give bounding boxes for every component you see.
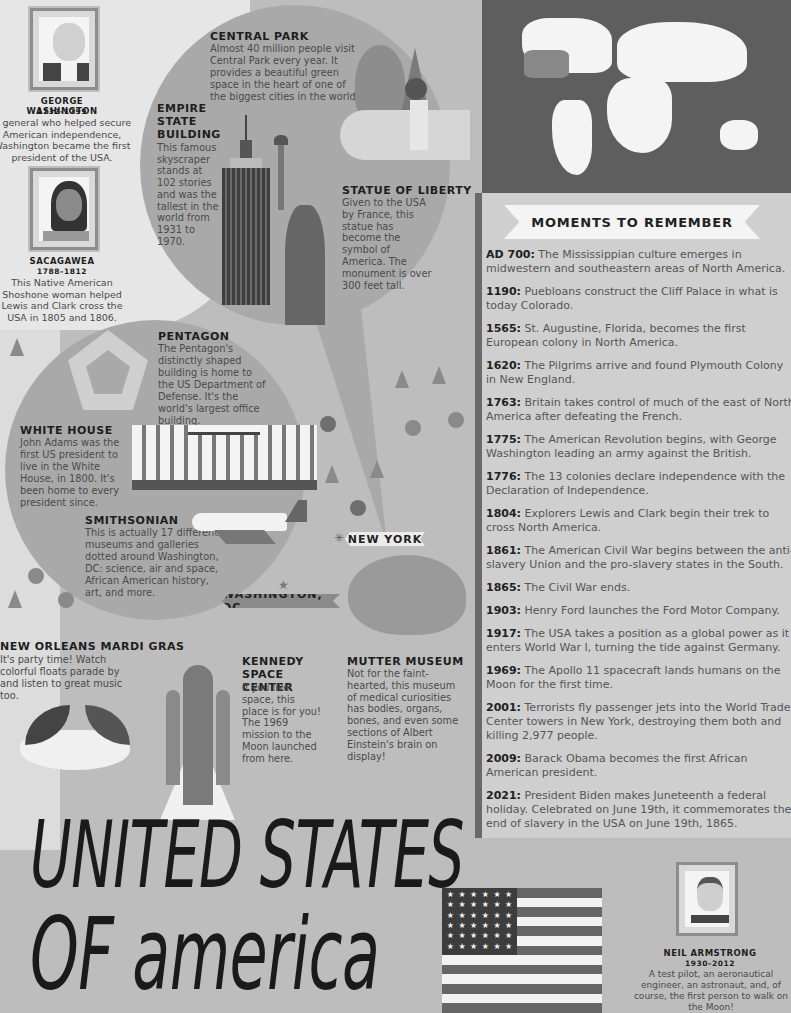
moments-banner: MOMENTS TO REMEMBER [504, 205, 760, 239]
airplane-icon [192, 513, 287, 531]
washington-portrait [30, 8, 98, 90]
statue-of-liberty-text: Given to the USA by France, this statue … [342, 197, 432, 291]
city-label-washington-dc: WASHINGTON, DC [222, 594, 340, 608]
moment-item: 1969: The Apollo 11 spacecraft lands hum… [486, 664, 791, 692]
white-house-text: John Adams was the first US president to… [20, 437, 120, 509]
sacagawea-years: 1788–1812 [4, 267, 120, 276]
africa-shape [607, 78, 672, 153]
moment-item: 1861: The American Civil War begins betw… [486, 544, 791, 572]
tree-icon [10, 338, 24, 356]
tree-icon [370, 460, 384, 478]
moments-panel: MOMENTS TO REMEMBER AD 700: The Mississi… [475, 193, 791, 838]
person-reading-icon [405, 78, 427, 100]
empire-state-text: This famous skyscraper stands at 102 sto… [157, 142, 219, 247]
sacagawea-name: SACAGAWEA [4, 256, 120, 266]
washington-years: 1732–1799 [4, 107, 120, 116]
smithsonian-title: SMITHSONIAN [85, 514, 178, 527]
south-america-shape [552, 100, 592, 175]
tree-icon [448, 412, 464, 428]
smithsonian-text: This is actually 17 different museums an… [85, 527, 220, 599]
tree-icon [395, 370, 409, 388]
moment-item: AD 700: The Mississippian culture emerge… [486, 248, 791, 276]
title-line-1: UNITED STATES [30, 808, 464, 904]
central-park-title: CENTRAL PARK [210, 30, 309, 43]
tree-icon [325, 465, 339, 483]
flag-canton: ★★★★★★ ★★★★★★ ★★★★★★ ★★★★★★ ★★★★★★ ★★★★★… [442, 888, 517, 955]
sacagawea-portrait [30, 168, 98, 250]
brain-icon [348, 555, 466, 635]
city-label-new-york: NEW YORK [345, 532, 425, 546]
mutter-text: Not for the faint-hearted, this museum o… [347, 668, 465, 762]
park-lawn [340, 110, 470, 160]
moments-list: AD 700: The Mississippian culture emerge… [486, 248, 791, 840]
world-map-panel [482, 0, 791, 193]
armstrong-portrait [676, 862, 738, 936]
moment-item: 1763: Britain takes control of much of t… [486, 396, 791, 424]
moment-item: 1917: The USA takes a position as a glob… [486, 627, 791, 655]
moments-heading: MOMENTS TO REMEMBER [531, 215, 733, 230]
us-flag-icon: ★★★★★★ ★★★★★★ ★★★★★★ ★★★★★★ ★★★★★★ ★★★★★… [442, 888, 602, 1013]
washington-bio: A general who helped secure American ind… [0, 117, 132, 163]
eurasia-shape [617, 22, 747, 82]
tree-icon [350, 500, 366, 516]
kennedy-text: If you like space, this place is for you… [242, 682, 322, 765]
sacagawea-bio: This Native American Shoshone woman help… [0, 277, 132, 323]
empire-state-title: EMPIRE STATE BUILDING [157, 102, 227, 141]
moment-item: 2009: Barack Obama becomes the first Afr… [486, 752, 791, 780]
moment-item: 1804: Explorers Lewis and Clark begin th… [486, 507, 791, 535]
moment-item: 1903: Henry Ford launches the Ford Motor… [486, 604, 791, 618]
moment-item: 2001: Terrorists fly passenger jets into… [486, 701, 791, 743]
statue-of-liberty-title: STATUE OF LIBERTY [342, 184, 472, 197]
burst-icon: ✳ [334, 531, 344, 545]
armstrong-name: NEIL ARMSTRONG [640, 948, 780, 958]
central-park-text: Almost 40 million people visit Central P… [210, 43, 360, 103]
mutter-title: MUTTER MUSEUM [347, 655, 464, 668]
pentagon-text: The Pentagon's distinctly shaped buildin… [158, 343, 266, 427]
moment-item: 1865: The Civil War ends. [486, 581, 791, 595]
statue-of-liberty-icon [285, 205, 325, 325]
armstrong-years: 1930–2012 [640, 959, 780, 968]
moment-item: 1775: The American Revolution begins, wi… [486, 433, 791, 461]
moment-item: 1620: The Pilgrims arrive and found Plym… [486, 359, 791, 387]
moment-item: 2021: President Biden makes Juneteenth a… [486, 789, 791, 831]
moment-item: 1190: Puebloans construct the Cliff Pala… [486, 285, 791, 313]
tree-icon [432, 366, 446, 384]
australia-shape [720, 120, 758, 150]
tree-icon [320, 416, 336, 432]
usa-highlight [524, 50, 569, 78]
moment-item: 1565: St. Augustine, Florida, becomes th… [486, 322, 791, 350]
tree-icon [355, 45, 405, 120]
tree-icon [8, 590, 22, 608]
empire-state-building-icon [245, 115, 247, 140]
mardi-gras-text: It's party time! Watch colorful floats p… [0, 654, 140, 702]
tree-icon [58, 592, 74, 608]
tree-icon [405, 420, 421, 436]
title-line-2: OF america [30, 905, 379, 1005]
tree-icon [28, 568, 44, 584]
star-icon: ★ [278, 578, 289, 592]
moment-item: 1776: The 13 colonies declare independen… [486, 470, 791, 498]
armstrong-bio: A test pilot, an aeronautical engineer, … [630, 969, 791, 1013]
mardi-gras-title: NEW ORLEANS MARDI GRAS [0, 640, 184, 653]
white-house-title: WHITE HOUSE [20, 424, 113, 437]
pentagon-title: PENTAGON [158, 330, 230, 343]
